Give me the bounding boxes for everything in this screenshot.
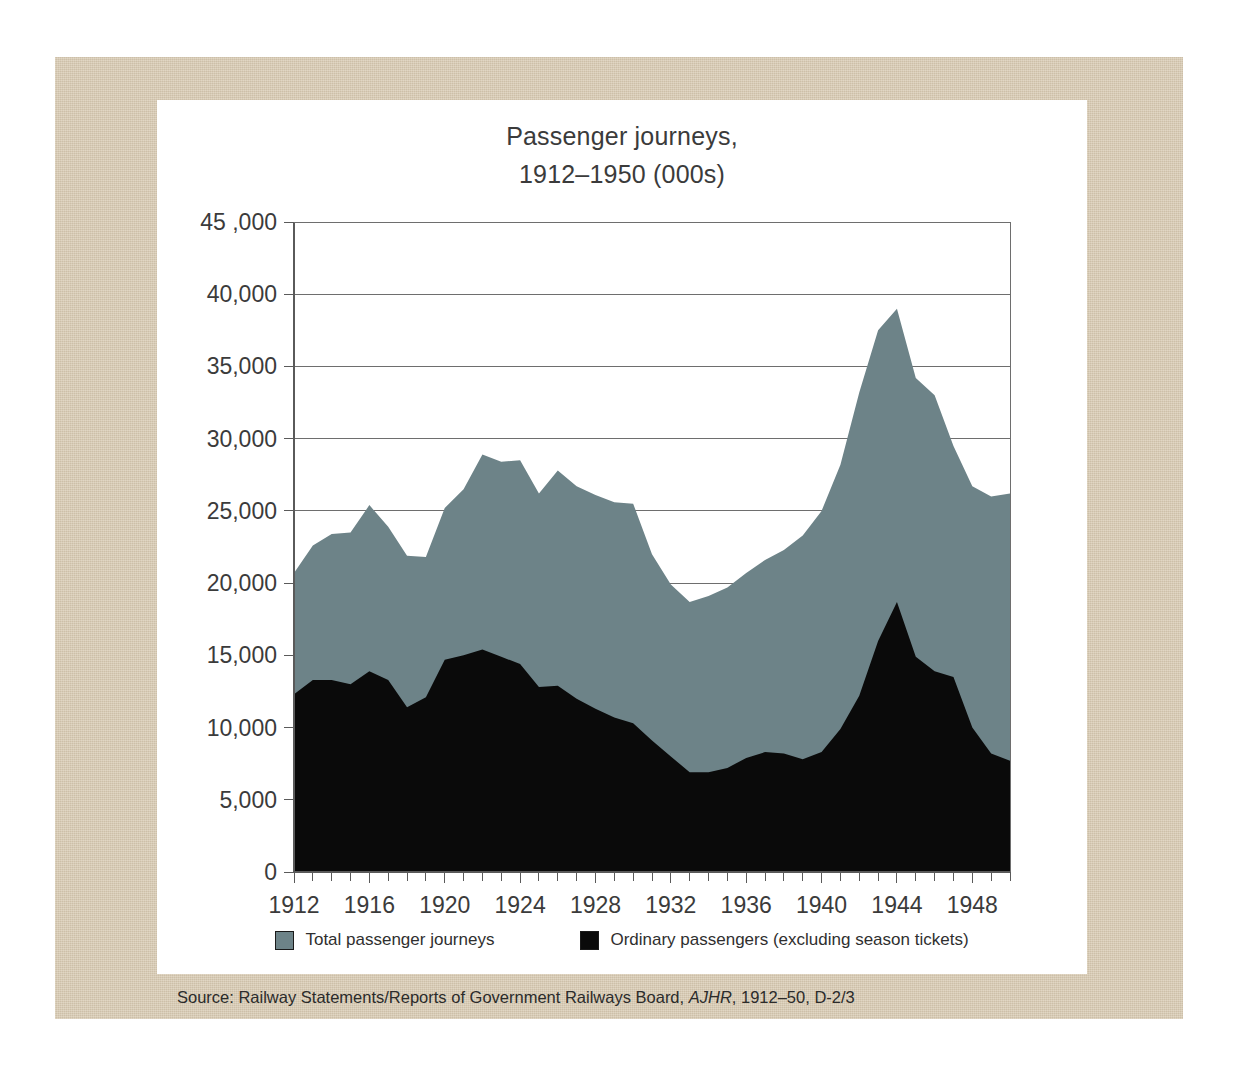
series-areas: [294, 309, 1010, 872]
chart-legend: Total passenger journeys Ordinary passen…: [157, 930, 1087, 950]
y-tick-label: 20,000: [207, 570, 277, 596]
source-suffix: , 1912–50, D-2/3: [732, 988, 855, 1006]
legend-swatch-total-icon: [275, 931, 294, 950]
y-tick-label: 30,000: [207, 426, 277, 452]
x-tick-label: 1916: [344, 892, 395, 918]
x-tick-label: 1924: [495, 892, 546, 918]
source-citation-italic: AJHR: [689, 988, 732, 1006]
x-axis-tick-labels: 1912191619201924192819321936194019441948: [268, 892, 997, 918]
x-tick-label: 1936: [721, 892, 772, 918]
area-chart-svg: 05,00010,00015,00020,00025,00030,00035,0…: [157, 100, 1087, 974]
y-axis-ticks: [284, 222, 294, 872]
legend-label-total: Total passenger journeys: [305, 930, 494, 950]
y-tick-label: 25,000: [207, 498, 277, 524]
y-tick-label: 35,000: [207, 353, 277, 379]
x-tick-label: 1912: [268, 892, 319, 918]
chart-panel: Passenger journeys, 1912–1950 (000s) 05,…: [157, 100, 1087, 974]
source-note: Source: Railway Statements/Reports of Go…: [177, 988, 855, 1007]
y-axis-tick-labels: 05,00010,00015,00020,00025,00030,00035,0…: [200, 209, 277, 885]
legend-item-total: Total passenger journeys: [275, 930, 494, 950]
x-tick-label: 1928: [570, 892, 621, 918]
legend-item-ordinary: Ordinary passengers (excluding season ti…: [580, 930, 968, 950]
x-tick-label: 1940: [796, 892, 847, 918]
legend-swatch-ordinary-icon: [580, 931, 599, 950]
x-tick-label: 1948: [947, 892, 998, 918]
x-tick-label: 1932: [645, 892, 696, 918]
y-tick-label: 15,000: [207, 642, 277, 668]
x-tick-label: 1944: [871, 892, 922, 918]
y-tick-label: 45 ,000: [200, 209, 277, 235]
y-tick-label: 10,000: [207, 715, 277, 741]
source-prefix: Source: Railway Statements/Reports of Go…: [177, 988, 689, 1006]
legend-label-ordinary: Ordinary passengers (excluding season ti…: [610, 930, 968, 950]
figure-mat: Passenger journeys, 1912–1950 (000s) 05,…: [55, 57, 1183, 1019]
y-tick-label: 0: [264, 859, 277, 885]
x-axis-ticks: [294, 872, 1010, 883]
y-tick-label: 40,000: [207, 281, 277, 307]
plot-area: 05,00010,00015,00020,00025,00030,00035,0…: [157, 100, 1087, 974]
x-tick-label: 1920: [419, 892, 470, 918]
y-tick-label: 5,000: [219, 787, 277, 813]
